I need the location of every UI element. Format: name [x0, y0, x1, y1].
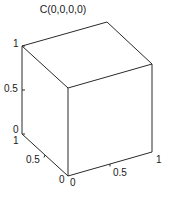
- z-tick-label-05: 0.5: [4, 84, 18, 94]
- cube-plot: [0, 0, 170, 198]
- y-tick-label-0: 0: [59, 175, 65, 185]
- y-tick-label-1: 1: [13, 136, 19, 146]
- x-tick-label-0: 0: [70, 178, 76, 188]
- y-tick-label-05: 0.5: [26, 155, 40, 165]
- z-tick-label-0: 0: [13, 125, 19, 135]
- z-tick-label-1: 1: [13, 39, 19, 49]
- chart-title: C(0,0,0,0): [40, 4, 87, 15]
- cube-top-face: [22, 22, 152, 88]
- y-tick-05: [44, 155, 45, 158]
- x-tick-label-1: 1: [156, 155, 162, 165]
- x-tick-label-05: 0.5: [113, 168, 127, 178]
